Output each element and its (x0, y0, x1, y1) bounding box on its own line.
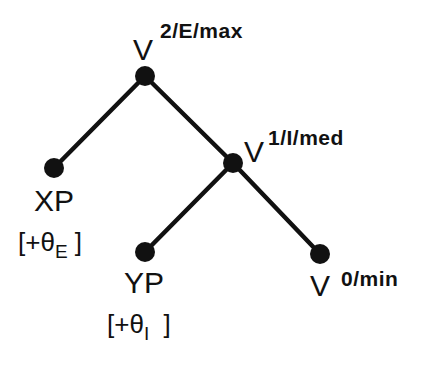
yp-annotation-suffix: ] (164, 309, 171, 339)
node-yp (135, 242, 155, 262)
node-v0-superscript: 0/min (341, 268, 398, 289)
xp-annotation-suffix: ] (75, 227, 82, 257)
node-v0-label: V (310, 271, 330, 301)
node-v2-superscript: 2/E/max (160, 20, 243, 41)
xp-annotation-subscript: E (55, 241, 68, 262)
node-yp-annotation: [+θI ] (107, 311, 171, 337)
node-xp-label: XP (34, 186, 74, 216)
edge-v1-yp (145, 163, 233, 252)
edge-v1-v0 (233, 163, 320, 254)
xp-annotation-prefix: [+θ (18, 227, 55, 257)
node-v1-superscript: 1/I/med (268, 127, 344, 148)
node-yp-label: YP (124, 268, 164, 298)
yp-annotation-prefix: [+θ (107, 309, 144, 339)
node-v1-label: V (244, 137, 264, 167)
edge-v2-v1 (145, 76, 233, 163)
node-xp (44, 158, 64, 178)
node-v2-label: V (133, 35, 153, 65)
node-v1 (223, 153, 243, 173)
node-xp-annotation: [+θE ] (18, 229, 82, 255)
node-v2 (135, 66, 155, 86)
edge-v2-xp (54, 76, 145, 168)
yp-annotation-subscript: I (144, 323, 149, 344)
node-v0 (310, 244, 330, 264)
